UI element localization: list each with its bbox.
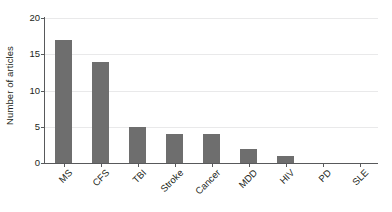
x-tick-label-text: SLE xyxy=(350,167,370,187)
y-tick-label: 5 xyxy=(18,122,40,132)
x-tick-label-text: CFS xyxy=(90,167,111,188)
y-tick-label: 15 xyxy=(18,50,40,60)
gridline xyxy=(45,18,378,19)
x-tick-label-text: Cancer xyxy=(193,167,222,196)
bar xyxy=(203,134,220,163)
x-tick-label-text: HIV xyxy=(278,167,297,186)
bar xyxy=(55,40,72,163)
x-tick-label-text: Stroke xyxy=(158,167,185,194)
bar xyxy=(129,127,146,163)
plot-area xyxy=(45,18,378,163)
y-tick-label: 20 xyxy=(18,13,40,23)
bar xyxy=(92,62,109,164)
y-axis-line xyxy=(44,17,45,164)
x-tick-label-text: MDD xyxy=(236,167,259,190)
x-axis-tick-labels: MSCFSTBIStrokeCancerMDDHIVPDSLE xyxy=(45,167,378,212)
bar-chart-figure: Number of articles 05101520 MSCFSTBIStro… xyxy=(0,0,392,212)
y-tick-label: 0 xyxy=(18,158,40,168)
x-tick-label-text: TBI xyxy=(130,167,148,185)
x-tick-label-text: PD xyxy=(316,167,333,184)
bar xyxy=(166,134,183,163)
y-axis-tick-labels: 05101520 xyxy=(18,18,40,163)
y-tick-label: 10 xyxy=(18,86,40,96)
bar xyxy=(277,156,294,163)
x-tick-label-text: MS xyxy=(57,167,75,185)
gridline xyxy=(45,54,378,55)
